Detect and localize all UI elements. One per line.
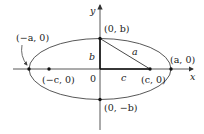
- label-segment-c: c: [121, 72, 127, 83]
- label-right-vertex: (a, 0): [170, 54, 195, 65]
- point-top-covertex: [98, 37, 101, 40]
- label-left-focus: (−c, 0): [42, 74, 75, 85]
- label-right-focus: (c, 0): [141, 74, 166, 85]
- point-right-focus: [148, 67, 151, 70]
- label-top-covertex: (0, b): [104, 23, 130, 34]
- ellipse-diagram: y x 0 (0, b) (0, −b) (−a, 0) (a, 0) (−c,…: [0, 0, 204, 134]
- y-axis-label: y: [89, 5, 96, 16]
- point-left-focus: [47, 67, 50, 70]
- label-bottom-covertex: (0, −b): [104, 102, 138, 113]
- x-axis-label: x: [190, 71, 196, 82]
- origin-label: 0: [90, 73, 96, 84]
- label-segment-b: b: [89, 51, 95, 62]
- pointer-arrow-icon: [22, 45, 27, 65]
- label-segment-a: a: [132, 46, 138, 57]
- segment-a: [100, 39, 150, 70]
- point-right-vertex: [169, 67, 172, 70]
- point-bottom-covertex: [98, 98, 101, 101]
- point-left-vertex: [27, 67, 30, 70]
- label-left-vertex: (−a, 0): [16, 32, 49, 43]
